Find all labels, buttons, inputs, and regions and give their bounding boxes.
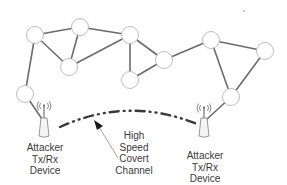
wifi-wave-outer-right (50, 102, 52, 111)
label-line: Channel (108, 165, 160, 177)
wifi-wave-outer-left (197, 104, 199, 113)
node-i (257, 43, 274, 60)
label-line: Covert (108, 153, 160, 165)
left-device-label: Attacker Tx/Rx Device (20, 142, 70, 177)
node-j (223, 89, 240, 106)
label-line: Device (180, 173, 230, 185)
label-line: Tx/Rx (180, 162, 230, 174)
label-line: Attacker (20, 142, 70, 154)
edge-h-j (211, 40, 231, 97)
node-g (122, 72, 139, 89)
label-line: High (108, 130, 160, 142)
network-edges (25, 27, 265, 122)
covert-channel-label: High Speed Covert Channel (108, 130, 160, 176)
device-body (199, 118, 209, 137)
node-f (156, 52, 173, 69)
edge-c-e (69, 35, 130, 67)
wifi-waves-icon (40, 103, 41, 109)
node-h (203, 32, 220, 49)
node-a (27, 27, 44, 44)
label-line: Device (20, 165, 70, 177)
right-device-icon (197, 104, 211, 138)
label-line: Tx/Rx (20, 154, 70, 166)
wifi-wave-inner-right (208, 105, 209, 111)
device-body (39, 118, 49, 137)
left-device-icon (37, 102, 51, 138)
node-c (61, 59, 78, 76)
node-d (17, 86, 34, 103)
wifi-wave-outer-right (210, 104, 212, 113)
label-line: Speed (108, 142, 160, 154)
node-b (72, 19, 89, 36)
wifi-wave-inner-right (48, 103, 49, 109)
covert-channel-arc (60, 111, 197, 127)
arrowhead-icon (94, 120, 103, 130)
wifi-wave-outer-left (37, 102, 39, 111)
wifi-waves-icon (200, 105, 201, 111)
right-device-label: Attacker Tx/Rx Device (180, 150, 230, 185)
label-line: Attacker (180, 150, 230, 162)
annotation-dot (243, 10, 245, 12)
node-e (122, 27, 139, 44)
